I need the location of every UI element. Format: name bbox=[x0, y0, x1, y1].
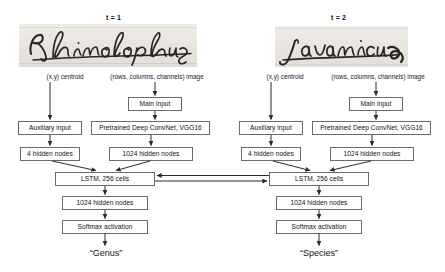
softmax-box-t1[interactable]: Softmax activation bbox=[62, 220, 148, 234]
handwriting-specimen-t1 bbox=[19, 24, 197, 67]
post-hidden-nodes-box-t2[interactable]: 1024 hidden nodes bbox=[276, 196, 362, 210]
post-hidden-nodes-box-t1[interactable]: 1024 hidden nodes bbox=[62, 196, 148, 210]
conv-hidden-nodes-box-t2[interactable]: 1024 hidden nodes bbox=[330, 147, 414, 161]
auxiliary-input-box-t1[interactable]: Auxiliary input bbox=[18, 121, 82, 135]
centroid-input-label-t2: (x,y) centroid bbox=[240, 74, 330, 80]
auxiliary-input-box-t2[interactable]: Auxiliary input bbox=[239, 121, 303, 135]
diagram-canvas: t = 1 bbox=[0, 0, 445, 272]
arrow-conv-hidden-to-lstm-t1 bbox=[116, 161, 150, 171]
convnet-box-t2[interactable]: Pretrained Deep ConvNet, VGG16 bbox=[312, 121, 431, 135]
timestep-1-time-label: t = 1 bbox=[106, 14, 121, 21]
arrow-aux-hidden-to-lstm-t2 bbox=[273, 161, 310, 171]
timestep-2-time-label: t = 2 bbox=[331, 14, 346, 21]
output-genus-label: “Genus” bbox=[75, 248, 137, 258]
image-input-label-t1: (rows, columns, channels) image bbox=[97, 74, 217, 80]
handwriting-specimen-t2 bbox=[275, 26, 408, 67]
arrow-conv-hidden-to-lstm-t2 bbox=[330, 161, 371, 171]
lstm-box-t1[interactable]: LSTM, 256 cells bbox=[55, 172, 155, 186]
conv-hidden-nodes-box-t1[interactable]: 1024 hidden nodes bbox=[109, 147, 193, 161]
softmax-box-t2[interactable]: Softmax activation bbox=[276, 220, 362, 234]
main-input-box-t1[interactable]: Main input bbox=[128, 97, 182, 111]
aux-hidden-nodes-box-t2[interactable]: 4 hidden nodes bbox=[241, 147, 301, 161]
image-input-label-t2: (rows, columns, channels) image bbox=[318, 74, 438, 80]
lstm-box-t2[interactable]: LSTM, 256 cells bbox=[269, 172, 369, 186]
arrow-aux-hidden-to-lstm-t1 bbox=[52, 161, 96, 171]
convnet-box-t1[interactable]: Pretrained Deep ConvNet, VGG16 bbox=[91, 121, 210, 135]
main-input-box-t2[interactable]: Main input bbox=[349, 97, 403, 111]
aux-hidden-nodes-box-t1[interactable]: 4 hidden nodes bbox=[20, 147, 80, 161]
output-species-label: “Species” bbox=[287, 248, 351, 258]
